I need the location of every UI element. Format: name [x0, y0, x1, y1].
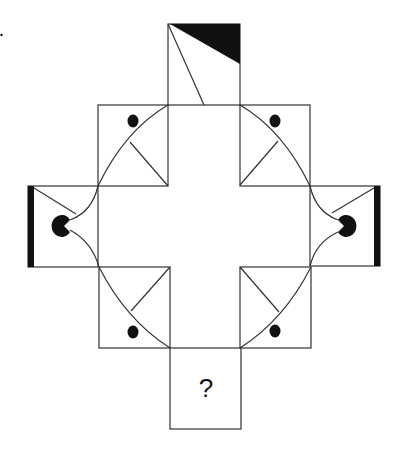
question-mark: ? [199, 373, 213, 404]
top-left-v-line [130, 142, 168, 186]
bottom-right-v-line [240, 267, 279, 312]
top-black-triangle [170, 24, 240, 64]
dot-top-right [270, 115, 281, 128]
left-black-bar [28, 186, 34, 267]
right-pacman [338, 215, 356, 237]
left-curve-bottom [70, 230, 99, 267]
dot-top-left [128, 115, 139, 128]
stray-dot [0, 34, 2, 36]
dot-bottom-right [270, 325, 281, 338]
left-pacman [52, 215, 70, 237]
bottom-left-v-line [131, 267, 170, 311]
puzzle-figure: ? [0, 0, 403, 452]
right-curve-top [310, 186, 338, 220]
right-diagonal-line [332, 188, 374, 213]
left-diagonal-line [34, 188, 76, 214]
left-curve-top [70, 186, 98, 220]
right-curve-bottom [310, 232, 338, 266]
right-black-bar [374, 186, 380, 266]
top-right-v-line [240, 141, 278, 185]
dot-bottom-left [128, 326, 139, 339]
